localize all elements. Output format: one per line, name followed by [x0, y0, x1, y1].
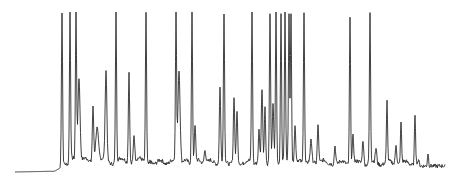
plot-area [15, 12, 445, 172]
chromatogram-chart [0, 0, 471, 182]
chromatogram-trace [15, 12, 445, 172]
